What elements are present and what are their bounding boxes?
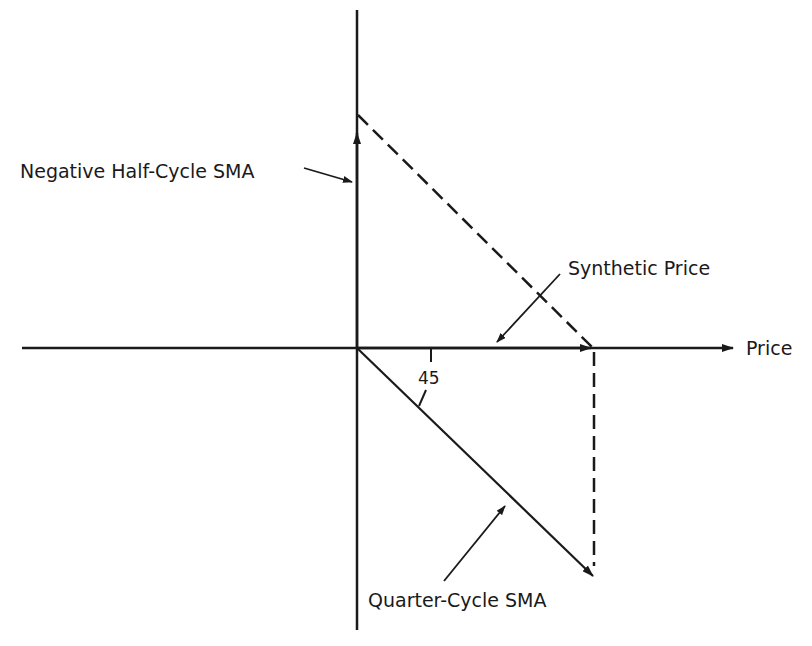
quarter-cycle-label: Quarter-Cycle SMA <box>368 591 546 610</box>
vector-diagram <box>0 0 812 646</box>
angle-label: 45 <box>418 370 440 387</box>
negative-half-cycle-label: Negative Half-Cycle SMA <box>20 162 254 181</box>
negative-half-cycle-pointer <box>304 168 352 182</box>
dashed-resultant-line <box>358 115 593 348</box>
synthetic-price-label: Synthetic Price <box>568 259 710 278</box>
price-axis-label: Price <box>746 339 792 358</box>
quarter-cycle-pointer <box>444 506 505 581</box>
angle-tick-bottom <box>419 390 426 406</box>
